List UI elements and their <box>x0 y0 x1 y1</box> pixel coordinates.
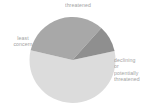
pie-chart-figure: threatened least concern declining or po… <box>0 0 155 109</box>
pie-chart-svg <box>0 0 155 109</box>
pie-label-least-concern: least concern <box>6 35 40 48</box>
pie-label-threatened: threatened <box>56 2 100 8</box>
pie-label-declining-or-potentially-threatened: declining or potentially threatened <box>114 57 155 83</box>
